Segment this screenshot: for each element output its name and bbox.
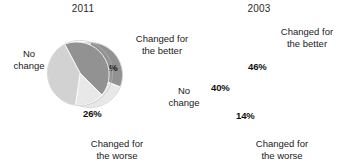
pie-label-2011-nochange-line1: No bbox=[23, 48, 35, 59]
pie-value-2003-worse: 14% bbox=[236, 110, 255, 121]
pie-label-2003-worse-line1: Changed for bbox=[256, 138, 308, 149]
pie-label-2003-worse: Changed for the worse bbox=[246, 138, 318, 161]
pie-label-2003-worse-line2: the worse bbox=[261, 150, 302, 161]
pie-value-2003-nochange: 40% bbox=[211, 82, 230, 93]
pie-value-2011-worse: 26% bbox=[83, 108, 102, 119]
pie-value-2003-better: 46% bbox=[248, 61, 267, 72]
chart-title-2011: 2011 bbox=[0, 3, 167, 14]
pie-label-2003-nochange-line2: change bbox=[168, 97, 199, 108]
pie-label-2003-nochange-line1: No bbox=[178, 85, 190, 96]
pie-label-2011-nochange-line2: change bbox=[13, 60, 44, 71]
pie-2003 bbox=[46, 39, 114, 107]
pie-label-2011-worse: Changed for the worse bbox=[81, 138, 153, 161]
pie-svg-2003 bbox=[46, 39, 114, 107]
pie-label-2003-better-line2: the better bbox=[287, 38, 327, 49]
pie-label-2011-worse-line2: the worse bbox=[96, 150, 137, 161]
pie-label-2003-better: Changed for the better bbox=[274, 26, 337, 49]
chart-title-2003: 2003 bbox=[175, 3, 337, 14]
pie-chart-figure: 2011 31% 26% 43% Changed for the better … bbox=[0, 0, 337, 167]
pie-label-2003-nochange: No change bbox=[160, 85, 208, 108]
pie-label-2003-better-line1: Changed for bbox=[281, 26, 333, 37]
pie-label-2011-worse-line1: Changed for bbox=[91, 138, 143, 149]
